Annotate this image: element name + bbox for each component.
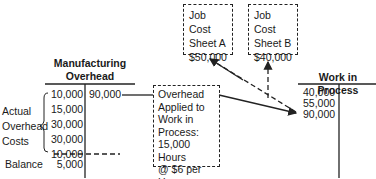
balance-label: Balance — [5, 158, 43, 170]
job-b-amount: $40,000 — [254, 50, 292, 64]
mfg-overhead-title: Manufacturing Overhead — [40, 57, 140, 83]
wip-debits: 40,000 55,000 90,000 — [303, 87, 335, 120]
actual-overhead-costs-label: Actual Overhead Costs — [2, 104, 48, 149]
mfg-overhead-debits: 10,000 15,000 30,000 30,000 10,000 — [51, 87, 83, 162]
overhead-applied-box: Overhead Applied to Work in Process: 15,… — [153, 85, 220, 167]
balance-value: 5,000 — [51, 158, 83, 170]
job-cost-sheet-a: Job Cost Sheet A $50,000 — [183, 4, 233, 55]
job-b-line2: Sheet B — [254, 36, 292, 50]
job-cost-sheet-b: Job Cost Sheet B $40,000 — [248, 4, 298, 55]
job-a-line1: Job Cost — [189, 8, 227, 36]
mfg-overhead-credit: 90,000 — [89, 87, 121, 102]
job-a-amount: $50,000 — [189, 50, 227, 64]
job-b-line1: Job Cost — [254, 8, 292, 36]
job-a-line2: Sheet A — [189, 36, 227, 50]
